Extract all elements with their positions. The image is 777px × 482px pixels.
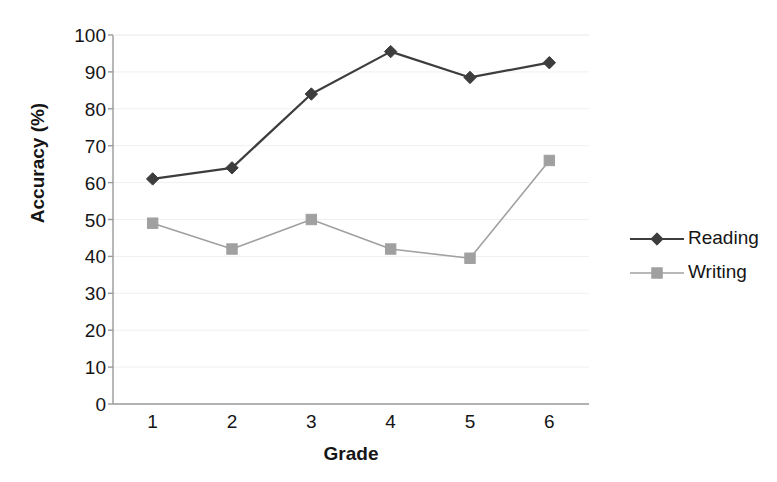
- data-point-marker: [544, 155, 554, 165]
- x-axis-tick-labels: 123456: [113, 412, 589, 440]
- series-line: [153, 160, 550, 258]
- legend-item-writing[interactable]: Writing: [630, 256, 770, 290]
- gridlines: [113, 35, 589, 367]
- x-axis-title: Grade: [113, 443, 589, 465]
- legend-marker-diamond-icon: [630, 230, 684, 248]
- x-tick-label: 3: [291, 412, 331, 431]
- data-point-marker: [464, 71, 476, 83]
- series-line: [153, 52, 550, 179]
- x-tick-label: 6: [529, 412, 569, 431]
- data-point-marker: [146, 173, 158, 185]
- x-tick-label: 5: [450, 412, 490, 431]
- legend-item-reading[interactable]: Reading: [630, 222, 770, 256]
- data-point-marker: [651, 233, 663, 245]
- data-point-marker: [465, 253, 475, 263]
- x-tick-label: 1: [133, 412, 173, 431]
- data-point-marker: [306, 214, 316, 224]
- data-point-marker: [384, 45, 396, 57]
- legend-label: Reading: [688, 227, 759, 249]
- axis-tickmarks: [108, 35, 113, 404]
- legend-label: Writing: [688, 261, 747, 283]
- legend-marker-square-icon: [630, 264, 684, 282]
- data-point-marker: [227, 244, 237, 254]
- data-point-marker: [385, 244, 395, 254]
- series-reading: [146, 45, 555, 185]
- chart-legend: ReadingWriting: [630, 222, 770, 290]
- data-point-marker: [652, 268, 662, 278]
- x-tick-label: 2: [212, 412, 252, 431]
- data-point-marker: [543, 56, 555, 68]
- data-point-marker: [147, 218, 157, 228]
- data-series-layer: [146, 45, 555, 263]
- line-chart: Accuracy (%) 0102030405060708090100 1234…: [0, 0, 777, 482]
- x-tick-label: 4: [371, 412, 411, 431]
